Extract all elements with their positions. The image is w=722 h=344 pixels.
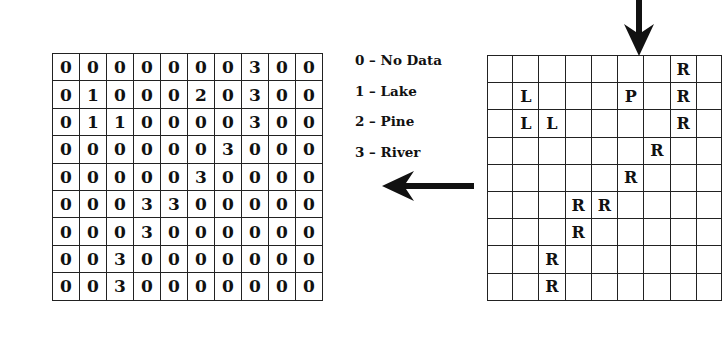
raster-cell: 0 (269, 136, 296, 163)
raster-cell: 3 (161, 190, 188, 217)
feature-cell (696, 56, 721, 83)
grid-row: R (488, 273, 722, 300)
feature-cell (591, 83, 617, 110)
feature-cell (565, 273, 591, 300)
raster-cell: 0 (53, 163, 80, 190)
feature-cell (696, 246, 721, 273)
raster-cell: 0 (296, 136, 323, 163)
raster-cell: 0 (161, 108, 188, 135)
raster-cell: 0 (80, 190, 107, 217)
raster-cell: 0 (134, 108, 161, 135)
raster-cell: 0 (215, 54, 242, 81)
feature-cell (488, 164, 513, 191)
raster-cell: 0 (107, 136, 134, 163)
feature-cell (513, 164, 539, 191)
feature-cell (565, 83, 591, 110)
raster-cell: 0 (296, 190, 323, 217)
raster-cell: 0 (269, 108, 296, 135)
feature-cell: R (670, 56, 696, 83)
raster-cell: 3 (107, 273, 134, 300)
feature-cell (670, 219, 696, 246)
feature-cell: R (591, 191, 617, 218)
raster-cell: 3 (242, 54, 269, 81)
feature-cell (591, 110, 617, 137)
grid-row: LLR (488, 110, 722, 137)
feature-cell: R (565, 219, 591, 246)
raster-cell: 0 (80, 136, 107, 163)
raster-cell: 0 (269, 81, 296, 108)
raster-cell: 3 (215, 136, 242, 163)
feature-cell (513, 246, 539, 273)
raster-cell: 0 (134, 136, 161, 163)
feature-cell (696, 164, 721, 191)
feature-cell (644, 56, 670, 83)
feature-cell: R (670, 83, 696, 110)
feature-cell (539, 219, 565, 246)
raster-cell: 0 (215, 218, 242, 245)
feature-cell (670, 273, 696, 300)
feature-cell (513, 56, 539, 83)
feature-cell (488, 83, 513, 110)
feature-cell (696, 83, 721, 110)
feature-cell (618, 273, 644, 300)
feature-cell (670, 191, 696, 218)
feature-grid: RLPRLLRRRRRRRR (487, 55, 722, 301)
feature-cell (513, 219, 539, 246)
raster-cell: 0 (134, 245, 161, 272)
raster-cell: 0 (215, 245, 242, 272)
feature-cell (539, 191, 565, 218)
grid-row: R (488, 137, 722, 164)
grid-row: 0000000300 (53, 54, 323, 81)
feature-cell: R (644, 137, 670, 164)
raster-cell: 3 (188, 163, 215, 190)
grid-row: 0000003000 (53, 136, 323, 163)
feature-cell (618, 191, 644, 218)
feature-cell (644, 83, 670, 110)
feature-cell (591, 246, 617, 273)
raster-cell: 0 (188, 108, 215, 135)
legend-item-pine: 2 – Pine (355, 113, 442, 144)
feature-cell: R (670, 110, 696, 137)
feature-cell: L (539, 110, 565, 137)
feature-cell (565, 110, 591, 137)
feature-cell (591, 56, 617, 83)
raster-cell: 0 (161, 218, 188, 245)
raster-cell: 0 (53, 81, 80, 108)
feature-cell (618, 110, 644, 137)
raster-cell: 0 (242, 190, 269, 217)
raster-cell: 0 (161, 273, 188, 300)
grid-row: LPR (488, 83, 722, 110)
raster-cell: 1 (80, 81, 107, 108)
raster-grid: 0000000300010002030001100003000000003000… (52, 53, 323, 301)
feature-cell (618, 56, 644, 83)
feature-cell (644, 191, 670, 218)
feature-cell (696, 191, 721, 218)
feature-cell (644, 246, 670, 273)
feature-cell (565, 137, 591, 164)
feature-cell: L (513, 110, 539, 137)
raster-cell: 0 (80, 273, 107, 300)
grid-row: 0000030000 (53, 163, 323, 190)
raster-cell: 0 (188, 136, 215, 163)
legend-item-lake: 1 – Lake (355, 83, 442, 114)
feature-cell (488, 110, 513, 137)
raster-cell: 0 (53, 54, 80, 81)
feature-cell: R (565, 191, 591, 218)
feature-cell (488, 219, 513, 246)
feature-cell (670, 164, 696, 191)
raster-cell: 0 (53, 245, 80, 272)
raster-cell: 0 (215, 108, 242, 135)
raster-cell: 0 (269, 163, 296, 190)
raster-cell: 0 (161, 81, 188, 108)
legend: 0 – No Data 1 – Lake 2 – Pine 3 – River (355, 52, 442, 174)
grid-row: 0003000000 (53, 218, 323, 245)
raster-cell: 0 (80, 163, 107, 190)
feature-cell: R (539, 273, 565, 300)
feature-cell (644, 273, 670, 300)
feature-cell (488, 246, 513, 273)
raster-cell: 0 (296, 163, 323, 190)
legend-item-no-data: 0 – No Data (355, 52, 442, 83)
feature-cell: P (618, 83, 644, 110)
feature-cell (539, 56, 565, 83)
raster-cell: 0 (53, 273, 80, 300)
